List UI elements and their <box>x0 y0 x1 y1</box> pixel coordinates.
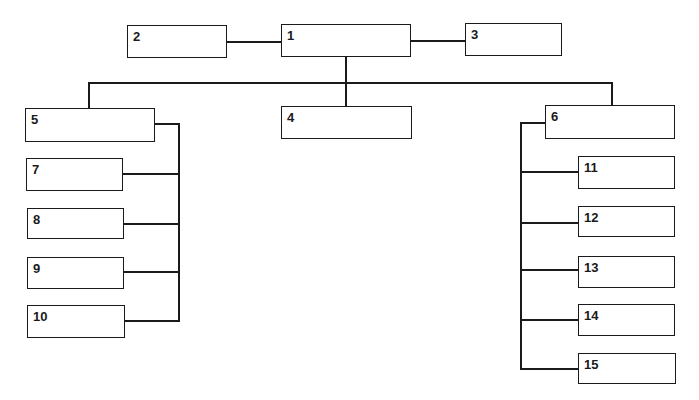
box-number: 2 <box>133 30 140 43</box>
box-number: 10 <box>33 310 47 323</box>
org-box-2: 2 <box>127 25 227 58</box>
connector-6-bracket <box>521 122 546 124</box>
connector-6-spine <box>520 122 522 370</box>
org-box-10: 10 <box>27 305 125 338</box>
org-box-14: 14 <box>578 304 675 336</box>
connector-6-14 <box>520 319 579 321</box>
box-number: 3 <box>471 28 478 41</box>
org-box-15: 15 <box>578 353 676 384</box>
connector-bus-4 <box>345 82 347 107</box>
box-number: 12 <box>584 211 598 224</box>
connector-main-bus <box>88 82 613 84</box>
box-number: 1 <box>287 29 294 42</box>
connector-2-1 <box>226 41 282 43</box>
box-number: 15 <box>584 358 598 371</box>
connector-5-7 <box>122 173 179 175</box>
connector-bus-5 <box>88 82 90 109</box>
org-box-11: 11 <box>578 156 675 189</box>
box-number: 9 <box>33 262 40 275</box>
connector-5-bracket <box>154 123 180 125</box>
org-box-7: 7 <box>26 158 123 191</box>
org-box-8: 8 <box>27 208 124 239</box>
box-number: 8 <box>33 213 40 226</box>
connector-bus-6 <box>611 82 613 106</box>
box-number: 14 <box>584 309 598 322</box>
box-number: 5 <box>31 113 38 126</box>
org-box-3: 3 <box>465 23 562 56</box>
box-number: 6 <box>551 110 558 123</box>
connector-1-3 <box>410 40 466 42</box>
box-number: 11 <box>584 161 598 174</box>
org-box-4: 4 <box>281 106 412 139</box>
org-box-5: 5 <box>25 108 155 142</box>
box-number: 7 <box>32 163 39 176</box>
connector-6-15 <box>520 368 579 370</box>
connector-6-11 <box>520 171 579 173</box>
connector-5-10 <box>124 320 180 322</box>
org-box-1: 1 <box>281 24 411 57</box>
org-box-9: 9 <box>27 257 124 289</box>
connector-1-trunk <box>345 56 347 84</box>
org-box-13: 13 <box>578 256 675 288</box>
connector-6-13 <box>520 269 579 271</box>
org-box-6: 6 <box>545 105 675 139</box>
connector-5-9 <box>123 271 179 273</box>
box-number: 13 <box>584 261 598 274</box>
org-box-12: 12 <box>578 206 675 237</box>
connector-5-8 <box>123 223 179 225</box>
box-number: 4 <box>287 111 294 124</box>
connector-6-12 <box>520 222 579 224</box>
